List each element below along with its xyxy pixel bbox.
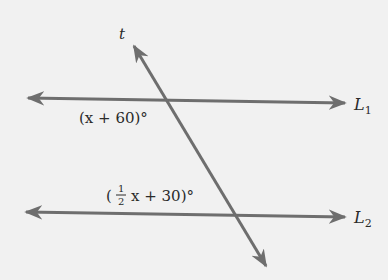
transversal-label: t (119, 25, 126, 43)
angle2-fraction-denominator: 2 (118, 196, 124, 207)
line1-label: L1 (353, 95, 372, 117)
line1-letter: L (353, 95, 365, 114)
angle2-open-paren: ( (106, 187, 112, 205)
line2-label: L2 (353, 208, 372, 230)
angle2-rest: x + 30)° (131, 187, 194, 205)
transversal-t (134, 46, 266, 266)
angle1-label: (x + 60)° (79, 109, 148, 127)
line2-letter: L (353, 208, 365, 227)
line-l2 (26, 212, 345, 217)
angle2-label: ( 1 2 x + 30)° (106, 183, 194, 207)
angle2-fraction-numerator: 1 (118, 183, 124, 194)
line1-subscript: 1 (365, 104, 372, 117)
diagram-canvas: t L1 L2 (x + 60)° ( 1 2 x + 30)° (0, 0, 388, 280)
line-l1 (28, 98, 345, 103)
line2-subscript: 2 (365, 217, 372, 230)
